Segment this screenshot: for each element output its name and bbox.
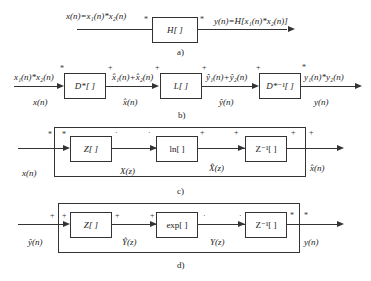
block-zinv: Z⁻¹[ ]	[245, 212, 287, 238]
symbol: +	[202, 64, 207, 72]
input-top-label: x₁(n)*x₂(n)	[14, 73, 54, 82]
output-top-label: y₁(n)*y₂(n)	[304, 73, 344, 82]
output-line	[286, 224, 338, 225]
mid2-label: Y(z)	[210, 238, 225, 247]
mid1-bottom-label: x̂(n)	[123, 98, 138, 107]
block-dinv-label: D*⁻¹[ ]	[266, 81, 294, 91]
arrow-icon	[238, 145, 245, 151]
block-z-label: Z[ ]	[84, 144, 98, 154]
block-z: Z[ ]	[70, 212, 112, 238]
mid1-label: Ŷ(z)	[122, 238, 137, 247]
input-bottom-label: x(n)	[33, 98, 48, 107]
mid1-label: X(z)	[120, 167, 135, 176]
output-label: y(n)	[304, 238, 319, 247]
symbol: +	[150, 212, 155, 220]
block-exp-label: exp[ ]	[166, 220, 187, 230]
arrow-icon	[252, 83, 259, 89]
block-l-label: L[ ]	[174, 81, 188, 91]
symbol: +	[234, 129, 239, 137]
arrow-icon	[152, 83, 159, 89]
line	[201, 86, 254, 87]
symbol: +	[115, 212, 120, 220]
block-z-label: Z[ ]	[84, 220, 98, 230]
output-line	[197, 29, 287, 30]
output-label: y(n)=H[x₁(n)*x₂(n)]	[214, 17, 288, 26]
input-label: x(n)	[22, 169, 37, 178]
caption-c: c)	[177, 187, 184, 196]
symbol: +	[256, 64, 261, 72]
symbol: *	[304, 212, 308, 220]
output-label: x̂(n)	[310, 164, 325, 173]
symbol: +	[291, 129, 296, 137]
input-line	[18, 224, 66, 225]
input-label: ŷ(n)	[28, 238, 43, 247]
caption-d: d)	[177, 261, 185, 270]
input-line	[14, 86, 62, 87]
symbol: +	[108, 64, 113, 72]
symbol: *	[200, 16, 204, 24]
block-ln-label: ln[ ]	[169, 144, 184, 154]
block-exp: exp[ ]	[156, 212, 198, 238]
caption-b: b)	[178, 111, 186, 120]
input-line	[18, 148, 66, 149]
arrow-icon	[238, 221, 245, 227]
block-l: L[ ]	[160, 73, 202, 99]
block-d-label: D*[ ]	[75, 81, 95, 91]
block-zinv: Z⁻¹[ ]	[245, 136, 287, 162]
input-label: x(n)=x₁(n)*x₂(n)	[66, 12, 126, 21]
symbol: +	[155, 64, 160, 72]
arrow-icon	[63, 145, 70, 151]
symbol: +	[62, 212, 67, 220]
mid2-bottom-label: ŷ(n)	[219, 98, 234, 107]
block-d: D*[ ]	[64, 73, 106, 99]
arrow-icon	[57, 83, 64, 89]
mid1-top-label: x̂₁(n)+x̂₂(n)	[112, 73, 153, 82]
arrow-icon	[355, 83, 362, 89]
block-zinv-label: Z⁻¹[ ]	[255, 220, 276, 230]
block-h-label: H[ ]	[167, 25, 183, 35]
arrow-icon	[288, 26, 295, 32]
block-z: Z[ ]	[70, 136, 112, 162]
block-dinv: D*⁻¹[ ]	[259, 73, 301, 99]
output-line	[286, 148, 338, 149]
symbol: ·	[239, 212, 242, 220]
symbol: ·	[148, 129, 151, 137]
symbol: *	[48, 131, 52, 139]
arrow-icon	[63, 221, 70, 227]
block-zinv-label: Z⁻¹[ ]	[255, 144, 276, 154]
symbol: +	[309, 129, 314, 137]
mid2-label: X̂(z)	[209, 164, 224, 173]
symbol: *	[62, 131, 66, 139]
input-line	[77, 29, 152, 30]
line	[105, 86, 155, 87]
arrow-icon	[337, 145, 344, 151]
symbol: ·	[115, 129, 118, 137]
arrow-icon	[337, 221, 344, 227]
symbol: *	[144, 16, 148, 24]
symbol: *	[290, 212, 294, 220]
block-ln: ln[ ]	[156, 136, 198, 162]
output-line	[300, 86, 356, 87]
caption-a: a)	[177, 48, 184, 57]
symbol: *	[60, 65, 64, 73]
output-bottom-label: y(n)	[314, 98, 329, 107]
symbol: +	[50, 212, 55, 220]
symbol: ·	[203, 212, 206, 220]
mid2-top-label: ŷ₁(n)+ŷ₂(n)	[206, 73, 247, 82]
block-h: H[ ]	[152, 17, 198, 43]
symbol: +	[200, 129, 205, 137]
symbol: *	[302, 64, 306, 72]
